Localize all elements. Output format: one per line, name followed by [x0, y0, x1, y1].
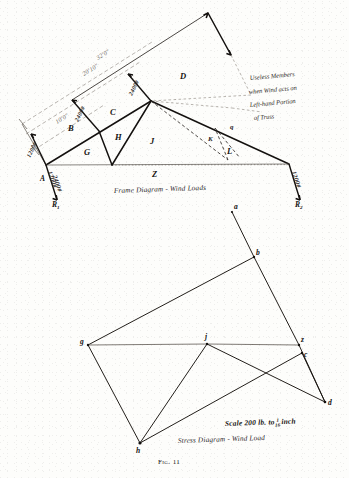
- stress-segment-jz: [207, 344, 299, 345]
- stress-segment-gb: [88, 257, 254, 345]
- useless-members-note: Useless Members when Wind acts on Left-h…: [248, 70, 297, 121]
- panel-label-q: q: [230, 123, 234, 131]
- stress-label-j: j: [204, 332, 208, 341]
- figure-page: 32'0" 20'10" 10'0" 1200# 2400# 2400#: [0, 0, 349, 478]
- stress-label-c: c: [304, 350, 308, 359]
- frame-diagram-group: 32'0" 20'10" 10'0" 1200# 2400# 2400#: [19, 13, 303, 210]
- stress-segment-gj: [88, 344, 207, 345]
- scale-note: Scale 200 lb. to 116inch: [225, 417, 296, 430]
- stress-label-d: d: [328, 398, 332, 407]
- stress-node-g: [87, 344, 89, 346]
- figure-number: Fig. 11: [158, 458, 180, 466]
- stress-segment-cd: [302, 353, 325, 402]
- wind-load-polygon: [72, 13, 262, 112]
- stress-node-c: [301, 352, 303, 354]
- wind-load-arrowhead-apex: [128, 74, 133, 77]
- joint-label-a: A: [39, 174, 45, 183]
- useless-note-line-4: of Truss: [253, 112, 274, 121]
- stress-node-z: [298, 344, 300, 346]
- stress-segment-hc: [140, 353, 302, 443]
- stress-diagram-group: a b c d g h j z Scale 200 lb. to 116inch…: [79, 202, 332, 466]
- truss-web-left-group: [99, 101, 151, 165]
- truss-member-right-rafter: [151, 101, 289, 164]
- dimension-label-rafter: 20'10": [81, 62, 100, 77]
- wind-load-label-apex: 2400#: [127, 78, 140, 97]
- wind-load-closure-d: [232, 108, 262, 112]
- useless-note-line-3: Left-hand Portion: [248, 97, 295, 108]
- stress-node-a: [231, 211, 233, 213]
- frame-diagram-caption: Frame Diagram - Wind Loads: [113, 184, 206, 195]
- panel-label-l: L: [226, 146, 232, 156]
- support-label-left: R1: [51, 200, 60, 210]
- wind-load-vector-right: [208, 13, 231, 55]
- stress-label-g: g: [79, 337, 84, 346]
- stress-label-z: z: [300, 335, 304, 344]
- panel-label-h: H: [114, 132, 122, 142]
- stress-node-b: [253, 256, 255, 258]
- stress-segment-ab: [232, 212, 254, 257]
- support-label-right: R2: [294, 200, 303, 210]
- wind-load-closure-b: [151, 95, 251, 101]
- wind-load-vector-upper: [72, 13, 208, 100]
- dimension-label-span: 32'0": [94, 47, 111, 61]
- stress-node-h: [138, 441, 141, 444]
- panel-label-z: Z: [151, 169, 157, 179]
- wind-load-arrowhead-lower-left: [31, 134, 36, 138]
- stress-segment-hj: [140, 344, 207, 443]
- truss-member-left-rafter: [46, 101, 151, 165]
- panel-label-c: C: [110, 107, 116, 117]
- wind-load-arrowhead-right: [226, 50, 231, 55]
- wind-load-arrowhead-mid-rafter: [72, 100, 77, 103]
- wind-load-arrowhead-top: [204, 13, 209, 18]
- panel-label-b: B: [67, 123, 74, 133]
- panel-label-j: J: [149, 136, 155, 146]
- stress-label-b: b: [256, 248, 260, 257]
- panel-label-g: G: [84, 147, 91, 157]
- stress-label-a: a: [234, 202, 238, 211]
- useless-note-line-1: Useless Members: [249, 70, 295, 81]
- stress-node-d: [324, 401, 327, 404]
- reaction-label-right: 1200#: [291, 170, 303, 189]
- stress-segment-gh: [88, 345, 140, 443]
- stress-diagram-caption: Stress Diagram - Wind Load: [178, 434, 266, 445]
- panel-label-k: K: [207, 135, 214, 143]
- figure-canvas: 32'0" 20'10" 10'0" 1200# 2400# 2400#: [0, 0, 349, 478]
- truss-member-left-strut: [99, 131, 112, 165]
- panel-label-d: D: [179, 71, 186, 81]
- dimension-tick-span-left: [19, 119, 27, 129]
- stress-segment-bz: [254, 257, 299, 345]
- stress-node-j: [206, 343, 208, 345]
- truss-member-bottom-chord: [46, 164, 289, 165]
- stress-label-h: h: [136, 446, 140, 455]
- useless-note-line-2: when Wind acts on: [248, 84, 297, 95]
